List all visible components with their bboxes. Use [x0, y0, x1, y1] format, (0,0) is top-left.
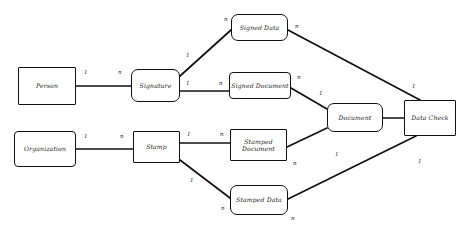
cardinality-signed-data-in: n: [224, 16, 228, 22]
cardinality-signature-right-out: 1: [186, 80, 190, 86]
edge-stamp-stamped-data: [180, 160, 230, 198]
edge-signed-data-data-check: [288, 30, 420, 100]
node-signed-data-label: Signed Data: [240, 24, 280, 31]
cardinality-person-out: 1: [84, 69, 88, 75]
node-signed-document-label: Signed Document: [231, 82, 288, 89]
node-document[interactable]: Document: [327, 103, 383, 132]
node-person[interactable]: Person: [18, 67, 76, 105]
node-stamped-data[interactable]: Stamped Data: [230, 185, 288, 215]
cardinality-signed-document-out: n: [297, 74, 301, 80]
node-stamp-label: Stamp: [146, 143, 167, 150]
node-signed-document[interactable]: Signed Document: [229, 72, 291, 99]
edge-stamped-document-document: [287, 128, 327, 147]
cardinality-stamped-document-out: n: [293, 160, 297, 166]
cardinality-stamped-data-in: n: [221, 205, 225, 211]
cardinality-stamp-right-out: 1: [187, 131, 191, 137]
node-signature[interactable]: Signature: [131, 69, 180, 102]
node-signed-data[interactable]: Signed Data: [231, 14, 288, 41]
node-signature-label: Signature: [140, 82, 172, 89]
cardinality-organization-out: 1: [84, 133, 88, 139]
diagram-canvas: Person Organization Signature Stamp Sign…: [0, 0, 466, 238]
node-organization-label: Organization: [24, 145, 66, 152]
node-data-check-label: Data Check: [411, 114, 448, 121]
node-person-label: Person: [36, 82, 58, 89]
cardinality-document-in-top: 1: [319, 90, 323, 96]
node-data-check[interactable]: Data Check: [404, 100, 456, 136]
cardinality-signed-data-out: n: [295, 23, 299, 29]
cardinality-document-in-bottom: 1: [335, 151, 339, 157]
cardinality-stamped-data-out: n: [291, 215, 295, 221]
cardinality-data-check-in-top: 1: [412, 83, 416, 89]
cardinality-signature-in: n: [118, 69, 122, 75]
node-document-label: Document: [339, 114, 372, 121]
node-stamp[interactable]: Stamp: [133, 131, 180, 163]
node-organization[interactable]: Organization: [14, 131, 76, 167]
cardinality-stamp-in: n: [120, 133, 124, 139]
node-stamped-data-label: Stamped Data: [236, 196, 282, 203]
cardinality-stamp-down-out: 1: [190, 177, 194, 183]
edge-stamped-data-data-check: [288, 136, 416, 199]
node-stamped-document-label: Stamped Document: [231, 138, 286, 152]
cardinality-stamped-document-in: n: [220, 131, 224, 137]
cardinality-signed-document-in: n: [219, 80, 223, 86]
node-stamped-document[interactable]: Stamped Document: [230, 129, 287, 161]
cardinality-document-out: 1: [418, 158, 422, 164]
cardinality-signature-up-out: 1: [186, 52, 190, 58]
